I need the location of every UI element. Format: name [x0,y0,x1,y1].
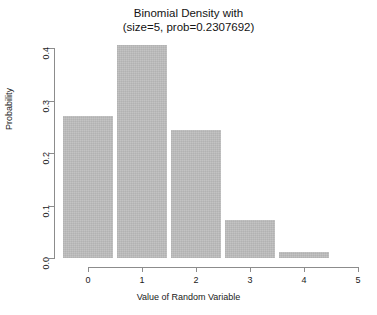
x-tick [358,267,359,272]
x-tick [88,267,89,272]
bar [279,252,329,258]
y-tick-label: 0.1 [41,205,51,245]
y-axis-line [54,48,55,259]
x-tick-label: 2 [181,275,211,285]
bar [63,116,113,258]
x-tick-label: 4 [289,275,319,285]
y-tick-label: 0.4 [41,47,51,87]
x-tick-label: 1 [127,275,157,285]
y-tick-label: 0.2 [41,152,51,192]
y-axis-title: Probability [4,88,14,130]
x-tick-label: 5 [343,275,373,285]
x-tick [250,267,251,272]
bar [171,130,221,258]
y-tick-label: 0.3 [41,100,51,140]
x-axis-title: Value of Random Variable [0,292,377,302]
y-tick-label: 0.0 [41,257,51,297]
x-tick [196,267,197,272]
x-tick [304,267,305,272]
plot-area: 0.00.10.20.30.4 Probability 012345 Value… [0,0,377,315]
x-axis-line [88,267,359,268]
bar [117,45,167,258]
x-tick-label: 0 [73,275,103,285]
binomial-density-chart: Binomial Density with (size=5, prob=0.23… [0,0,377,315]
x-tick-label: 3 [235,275,265,285]
x-tick [142,267,143,272]
bar [225,220,275,258]
